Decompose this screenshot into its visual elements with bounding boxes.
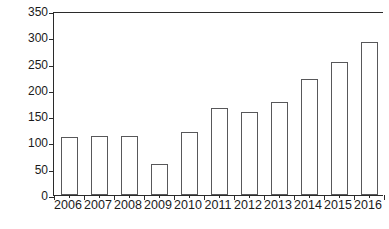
bar bbox=[181, 132, 198, 195]
bar-chart-figure: Thousands of Units 050100150200250300350… bbox=[0, 0, 389, 229]
plot-area bbox=[53, 12, 383, 196]
y-axis-tick-label: 0 bbox=[4, 190, 48, 202]
y-axis-tick bbox=[49, 118, 54, 119]
y-axis-tick-label: 50 bbox=[4, 164, 48, 176]
y-axis-tick-label: 350 bbox=[4, 6, 48, 18]
bar bbox=[121, 136, 138, 195]
bar bbox=[151, 164, 168, 195]
bar bbox=[271, 102, 288, 195]
y-axis-tick-labels: 050100150200250300350 bbox=[0, 12, 48, 196]
bar bbox=[361, 42, 378, 196]
y-axis-tick bbox=[49, 66, 54, 67]
y-axis-tick-label: 200 bbox=[4, 85, 48, 97]
bar bbox=[211, 108, 228, 195]
bar bbox=[91, 136, 108, 195]
y-axis-tick bbox=[49, 39, 54, 40]
y-axis-tick bbox=[49, 13, 54, 14]
y-axis-tick bbox=[49, 171, 54, 172]
y-axis-tick bbox=[49, 92, 54, 93]
y-axis-tick-label: 300 bbox=[4, 32, 48, 44]
y-axis-tick bbox=[49, 144, 54, 145]
y-axis-tick-label: 250 bbox=[4, 59, 48, 71]
x-axis-tick-labels: 2006200720082009201020112012201320142015… bbox=[53, 199, 383, 221]
y-axis-tick-label: 150 bbox=[4, 111, 48, 123]
y-axis-tick-label: 100 bbox=[4, 137, 48, 149]
bar bbox=[301, 79, 318, 195]
bar bbox=[331, 62, 348, 195]
bar bbox=[61, 137, 78, 195]
bar bbox=[241, 112, 258, 195]
x-axis-tick-label: 2016 bbox=[348, 199, 388, 213]
